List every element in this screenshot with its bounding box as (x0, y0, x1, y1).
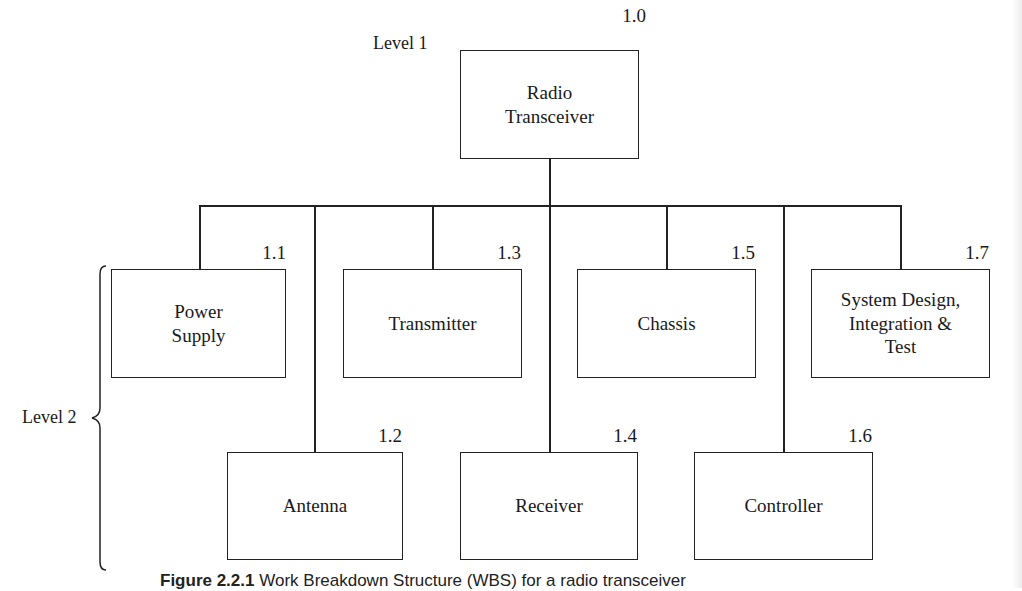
node-controller: Controller (694, 452, 873, 560)
figure-caption-text: Work Breakdown Structure (WBS) for a rad… (259, 571, 686, 590)
level-1-label: Level 1 (373, 33, 427, 54)
page-edge-shadow (1012, 0, 1022, 588)
node-id-1-0: 1.0 (586, 5, 646, 27)
connector-1-1 (199, 205, 201, 269)
node-id-1-5: 1.5 (695, 242, 755, 264)
node-id-1-1: 1.1 (226, 242, 286, 264)
connector-1-5 (666, 205, 668, 269)
node-transmitter: Transmitter (343, 269, 522, 378)
connector-1-2 (314, 205, 316, 452)
figure-label: Figure 2.2.1 (160, 571, 254, 590)
connector-1-4 (549, 205, 551, 452)
connector-1-7 (900, 205, 902, 269)
node-antenna: Antenna (227, 452, 403, 560)
node-id-1-7: 1.7 (929, 242, 989, 264)
level-2-label: Level 2 (22, 407, 76, 428)
node-radio-transceiver: Radio Transceiver (460, 50, 639, 159)
connector-1-6 (783, 205, 785, 452)
node-id-1-6: 1.6 (812, 425, 872, 447)
node-system-design-integration-test: System Design, Integration & Test (811, 269, 990, 378)
level-2-brace-icon (86, 262, 110, 574)
connector-1-3 (432, 205, 434, 269)
node-chassis: Chassis (577, 269, 756, 378)
node-receiver: Receiver (460, 452, 638, 560)
node-power-supply: Power Supply (111, 269, 286, 378)
node-id-1-4: 1.4 (577, 425, 637, 447)
root-connector (549, 159, 551, 205)
figure-caption: Figure 2.2.1 Work Breakdown Structure (W… (160, 571, 686, 591)
node-id-1-3: 1.3 (461, 242, 521, 264)
node-id-1-2: 1.2 (342, 425, 402, 447)
